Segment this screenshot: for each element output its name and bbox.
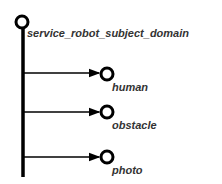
child-label-photo: photo <box>112 164 143 176</box>
node-obstacle-icon <box>101 106 113 118</box>
child-label-human: human <box>112 81 148 93</box>
node-photo-icon <box>101 151 113 163</box>
root-label: service_robot_subject_domain <box>27 27 189 39</box>
child-label-obstacle: obstacle <box>112 119 157 131</box>
node-human-icon <box>101 68 113 80</box>
